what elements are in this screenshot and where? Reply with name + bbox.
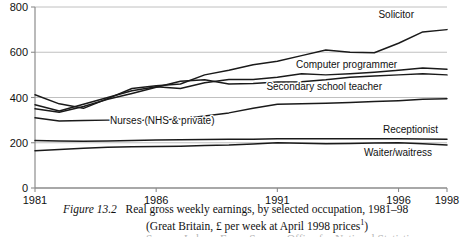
series-label: Solicitor <box>378 9 414 20</box>
figure-container: 8006004002000 19811986199119961998 Solic… <box>0 0 470 237</box>
series-label: Waiter/waitress <box>364 147 432 158</box>
series-label: Secondary school teacher <box>266 81 382 92</box>
series-line <box>35 68 447 111</box>
caption-title: Real gross weekly earnings, by selected … <box>126 203 409 215</box>
y-tick-labels: 8006004002000 <box>10 1 28 194</box>
y-tick-label: 200 <box>10 137 28 149</box>
caption-line-1: Figure 13.2 Real gross weekly earnings, … <box>0 203 470 216</box>
x-axis <box>35 188 447 192</box>
caption-subtitle-pre: (Great Britain, £ per week at April 1998… <box>146 220 360 232</box>
y-tick-label: 0 <box>22 182 28 194</box>
series-labels: SolicitorSolicitorComputer programmerCom… <box>110 9 438 158</box>
y-tick-label: 400 <box>10 92 28 104</box>
caption-line-2: (Great Britain, £ per week at April 1998… <box>0 216 470 233</box>
caption-subtitle-post: ) <box>364 220 368 232</box>
series-line <box>35 139 447 141</box>
y-tick-label: 600 <box>10 46 28 58</box>
y-axis <box>31 7 35 188</box>
series-label: Nurses (NHS & private) <box>110 115 214 126</box>
series-label: Receptionist <box>383 124 438 135</box>
figure-caption: Figure 13.2 Real gross weekly earnings, … <box>0 203 470 237</box>
figure-number: Figure 13.2 <box>63 203 117 215</box>
series-label: Computer programmer <box>296 59 398 70</box>
line-chart: 8006004002000 19811986199119961998 Solic… <box>0 0 470 237</box>
y-tick-label: 800 <box>10 1 28 13</box>
caption-line-3-source: Source: Labour Force Survey, Office for … <box>0 233 470 237</box>
grid-lines <box>35 7 447 188</box>
